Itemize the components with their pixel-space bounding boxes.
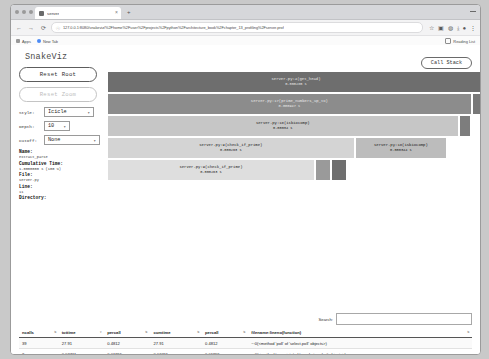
bookmark-apps-label: Apps [22, 39, 31, 44]
table-column-header[interactable]: tottime▾ [59, 328, 105, 338]
bookmark-new-tab-label: New Tab [43, 39, 58, 44]
table-cell: 0.03711 [150, 349, 202, 356]
table-column-header[interactable]: filename:lineno(function)⇅ [248, 328, 472, 338]
sort-arrow-icon: ⇅ [145, 330, 148, 334]
style-control: Style: Icicle ▾ [19, 107, 103, 117]
flame-frame[interactable] [459, 115, 471, 137]
search-label: Search: [319, 317, 333, 322]
table-cell: 27.91 [59, 338, 105, 349]
reset-root-button[interactable]: Reset Root [19, 67, 97, 82]
depth-select-value: 10 [48, 123, 54, 129]
table-cell: 39 [19, 338, 59, 349]
address-bar[interactable]: ⓘ 127.0.0.1:8080/snakeviz/%2Fhome%2Fuser… [51, 22, 423, 33]
reload-icon[interactable]: ⟳ [39, 24, 47, 32]
search-row: Search: [19, 313, 472, 325]
extensions-icon[interactable]: ▣ [438, 25, 444, 31]
sort-arrow-icon: ⇅ [243, 330, 246, 334]
depth-select[interactable]: 10 ▾ [44, 121, 70, 131]
chevron-down-icon: ▾ [64, 124, 66, 129]
flame-frame-time: 0.000285 s [285, 82, 307, 87]
account-icon[interactable]: ⏺ [463, 25, 466, 31]
bookmark-apps[interactable]: Apps [16, 39, 31, 44]
table-column-header[interactable]: percall⇅ [104, 328, 150, 338]
flame-frame[interactable] [315, 159, 331, 181]
stats-table: ncalls⇅tottime▾percall⇅cumtime⇅percall⇅f… [19, 328, 472, 355]
cutoff-select[interactable]: None ▾ [44, 135, 100, 145]
table-cell: 0.01855 [104, 349, 150, 356]
flame-frame-time: 0.000947 s [279, 104, 301, 109]
detail-directory-key: Directory: [19, 195, 103, 201]
sidebar-controls: Reset Root Reset Zoom Style: Icicle ▾ De… [19, 67, 103, 201]
table-body: 3927.910.481227.910.4812~:0(<method 'pol… [19, 338, 472, 356]
sort-arrow-icon: ⇅ [197, 330, 200, 334]
profile-icon[interactable]: ◍ [448, 25, 453, 31]
favicon-icon [39, 11, 44, 16]
reading-list-label: Reading List [453, 39, 475, 44]
bookmark-new-tab[interactable]: New Tab [37, 39, 58, 44]
frame-details: Name: extract_parse Cumulative Time: 1.0… [19, 149, 103, 201]
flame-frame[interactable]: server.py:4(get_head)0.000285 s [107, 71, 481, 93]
style-label: Style: [19, 110, 41, 115]
reading-list-button[interactable]: Reading List [445, 38, 475, 44]
close-icon[interactable]: × [115, 10, 118, 15]
browser-tab[interactable]: server [35, 7, 121, 19]
cutoff-label: Cutoff: [19, 138, 41, 143]
flame-frame-time: 0.000344 s [390, 148, 412, 153]
plus-icon[interactable]: + [127, 9, 131, 15]
stats-table-section: Search: ncalls⇅tottime▾percall⇅cumtime⇅p… [19, 313, 472, 350]
flame-frame[interactable] [472, 93, 481, 115]
table-cell: 0.03711 [59, 349, 105, 356]
table-cell: 0.4812 [104, 338, 150, 349]
flame-frame-time: 0.00034 s [273, 126, 292, 131]
minimize-icon[interactable] [470, 11, 476, 12]
flame-graph[interactable]: server.py:4(get_head)0.000285 sserver.py… [107, 69, 481, 217]
call-stack-button[interactable]: Call Stack [421, 57, 472, 69]
tab-strip: server × + [11, 5, 480, 20]
flame-frame[interactable]: server.py:17(prime_numbers_up_to)0.00094… [107, 93, 472, 115]
arrow-left-icon[interactable]: ← [15, 24, 23, 32]
cutoff-select-value: None [48, 137, 60, 143]
star-icon[interactable]: ☆ [429, 25, 434, 31]
flame-frame[interactable]: server.py:18(isbiocomp)0.000344 s [355, 137, 448, 159]
browser-window: server × + ← → ⟳ ⓘ 127.0.0.1:8080/snakev… [10, 4, 481, 355]
navigation-bar: ← → ⟳ ⓘ 127.0.0.1:8080/snakeviz/%2Fhome%… [11, 20, 480, 36]
toolbar-icons: ☆ ▣ ◍ ⤓ ⏺ ⋮ [427, 25, 476, 31]
table-cell: 0.01855 [202, 349, 248, 356]
screenshot-root: server × + ← → ⟳ ⓘ 127.0.0.1:8080/snakev… [0, 0, 489, 359]
cutoff-control: Cutoff: None ▾ [19, 135, 103, 145]
flame-frame[interactable]: server.py:9(check_if_prime)0.000263 s [107, 159, 315, 181]
table-cell: 27.91 [150, 338, 202, 349]
table-row[interactable]: 20.037110.018550.037110.01855~:0(<method… [19, 349, 472, 356]
window-controls[interactable] [15, 10, 33, 14]
page-title: SnakeViz [25, 52, 67, 62]
flame-frame[interactable]: server.py:9(check_if_prime)0.000263 s [107, 137, 355, 159]
page-content: SnakeViz Call Stack Reset Root Reset Zoo… [11, 45, 480, 354]
menu-icon[interactable]: ⋮ [470, 25, 476, 31]
reading-list-icon [445, 38, 451, 44]
table-column-header[interactable]: ncalls⇅ [19, 328, 59, 338]
table-header-row: ncalls⇅tottime▾percall⇅cumtime⇅percall⇅f… [19, 328, 472, 338]
globe-icon [37, 39, 41, 43]
depth-control: Depth: 10 ▾ [19, 121, 103, 131]
flame-frame-time: 0.000263 s [200, 170, 222, 175]
table-column-header[interactable]: cumtime⇅ [150, 328, 202, 338]
sort-arrow-icon: ▾ [100, 330, 102, 334]
download-icon[interactable]: ⤓ [457, 25, 459, 31]
depth-label: Depth: [19, 124, 41, 129]
chevron-down-icon: ▾ [88, 110, 90, 115]
flame-frame[interactable] [331, 159, 347, 181]
style-select-value: Icicle [48, 109, 67, 115]
flame-frame[interactable]: server.py:18(isbiocomp)0.00034 s [107, 115, 459, 137]
table-cell: 0.4812 [202, 338, 248, 349]
reset-zoom-button: Reset Zoom [19, 87, 97, 102]
table-row[interactable]: 3927.910.481227.910.4812~:0(<method 'pol… [19, 338, 472, 349]
search-input[interactable] [336, 313, 472, 325]
table-cell: 2 [19, 349, 59, 356]
apps-icon [16, 39, 20, 43]
arrow-right-icon[interactable]: → [27, 24, 35, 32]
flame-frame-time: 0.000263 s [220, 148, 242, 153]
chevron-down-icon: ▾ [94, 138, 96, 143]
style-select[interactable]: Icicle ▾ [44, 107, 94, 117]
table-column-header[interactable]: percall⇅ [202, 328, 248, 338]
table-cell: ~:0(<method 'poll' of 'select.poll' obje… [248, 338, 472, 349]
